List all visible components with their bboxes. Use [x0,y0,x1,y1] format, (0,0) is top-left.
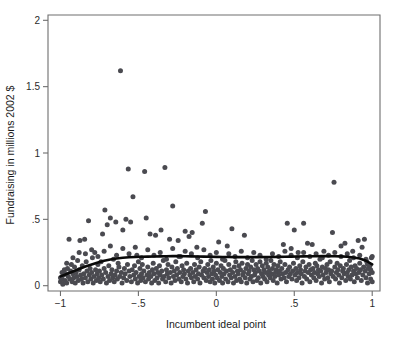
data-point [332,180,337,185]
data-point [128,220,133,225]
data-point [124,278,129,283]
data-point [142,169,147,174]
data-point [289,246,294,251]
data-point [327,279,332,284]
data-point [126,166,131,171]
data-point [256,275,261,280]
data-point [307,262,312,267]
data-point [328,259,333,264]
data-point [134,270,139,275]
x-tick-label: 1 [369,298,375,309]
data-point [205,262,210,267]
x-tick-label: 0 [214,298,220,309]
data-point [279,266,284,271]
data-point [176,238,181,243]
data-point [89,247,94,252]
data-point [179,279,184,284]
data-point [333,277,338,282]
data-point [113,220,118,225]
data-point [282,262,287,267]
data-point [370,254,375,259]
data-point [102,249,107,254]
data-point [363,275,368,280]
data-point [140,262,145,267]
data-point [183,249,188,254]
data-point [194,245,199,250]
data-point [70,255,75,260]
data-point [350,249,355,254]
data-point [90,255,95,260]
data-point [365,281,370,286]
data-point [162,165,167,170]
data-point [106,263,111,268]
data-point [170,246,175,251]
data-point [130,194,135,199]
scatter-plot-svg: −1−.50.51 0.511.52 Incumbent ideal point… [0,0,403,337]
data-point [265,279,270,284]
y-tick-label: 1.5 [26,81,40,92]
data-point [198,259,203,264]
data-point [301,250,306,255]
data-point [108,243,113,248]
data-point [229,226,234,231]
data-point [105,222,110,227]
data-point [239,249,244,254]
data-point [187,234,192,239]
data-point [67,237,72,242]
data-point [145,247,150,252]
data-point [185,281,190,286]
data-point [75,258,80,263]
data-point [77,250,82,255]
data-point [201,247,206,252]
data-point [360,245,365,250]
data-point [95,254,100,259]
data-point [332,250,337,255]
data-point [133,245,138,250]
x-tick-label: .5 [290,298,299,309]
data-point [321,249,326,254]
data-point [170,204,175,209]
data-point [120,227,125,232]
data-point [183,229,188,234]
x-axis-title: Incumbent ideal point [166,318,266,330]
data-point [239,279,244,284]
data-point [282,249,287,254]
data-point [341,266,346,271]
data-point [330,230,335,235]
data-point [120,281,125,286]
data-point [270,251,275,256]
data-point [86,218,91,223]
chart-background [0,0,403,337]
data-point [192,262,197,267]
data-point [127,251,132,256]
data-point [153,233,158,238]
data-point [362,237,367,242]
data-point [258,281,263,286]
data-point [307,279,312,284]
data-point [184,261,189,266]
data-point [250,258,255,263]
data-point [64,261,69,266]
data-point [212,281,217,286]
data-point [285,221,290,226]
data-point [368,267,373,272]
data-point [84,259,89,264]
data-point [159,227,164,232]
data-point [132,263,137,268]
data-point [159,269,164,274]
data-point [64,281,69,286]
data-point [289,277,294,282]
y-axis-title: Fundraising in millions 2002 $ [4,85,16,224]
y-tick-label: .5 [32,214,41,225]
data-point [158,250,163,255]
data-point [145,265,150,270]
data-point [268,258,273,263]
data-point [244,281,249,286]
data-point [200,221,205,226]
data-point [167,237,172,242]
data-point [114,253,119,258]
data-point [357,261,362,266]
data-point [305,241,310,246]
data-point [242,233,247,238]
data-point [123,217,128,222]
